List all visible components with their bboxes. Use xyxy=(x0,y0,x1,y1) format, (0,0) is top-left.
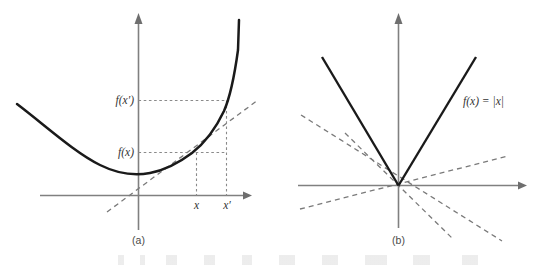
panel-b-caption: (b) xyxy=(392,234,405,246)
two-panel-convexity-figure: f(x′) f(x) x x′ (a) xyxy=(0,0,537,265)
panel-b: f(x) = |x| (b) xyxy=(298,13,527,246)
panel-a-guides-fxprime xyxy=(139,101,227,196)
panel-b-subgradient-1 xyxy=(301,115,502,241)
panel-a-label-f-xprime: f(x′) xyxy=(116,94,135,107)
page-footer-artifact xyxy=(0,255,537,265)
panel-a-caption: (a) xyxy=(132,234,145,246)
panel-a-x-axis xyxy=(40,192,252,200)
panel-a-label-x: x xyxy=(193,199,200,211)
panel-b-y-axis xyxy=(395,13,403,228)
panel-a-y-axis xyxy=(135,13,143,230)
panel-a: f(x′) f(x) x x′ (a) xyxy=(17,13,258,246)
panel-b-subgradient-2 xyxy=(300,156,508,209)
panel-a-label-f-x: f(x) xyxy=(118,146,134,159)
panel-b-function-label: f(x) = |x| xyxy=(463,95,504,108)
panel-b-x-axis xyxy=(298,182,527,190)
panel-a-label-x-prime: x′ xyxy=(222,199,231,211)
figure-container: f(x′) f(x) x x′ (a) xyxy=(0,0,537,265)
